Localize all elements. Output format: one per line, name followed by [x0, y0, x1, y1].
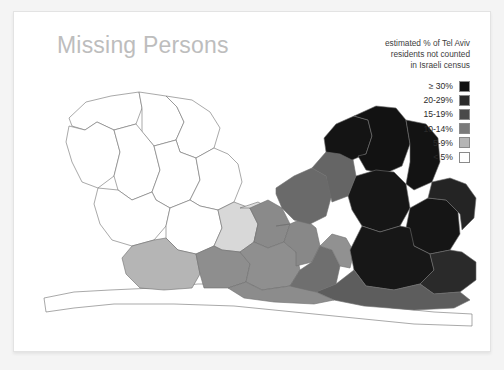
legend-swatch — [459, 109, 470, 120]
legend-row-4[interactable]: 5-9% — [320, 137, 470, 148]
legend-label: 15-19% — [423, 109, 453, 119]
legend-label: 20-29% — [423, 95, 453, 105]
legend-label: < 5% — [433, 152, 453, 162]
page-title: Missing Persons — [57, 32, 229, 59]
legend-swatch — [459, 137, 470, 148]
legend-row-1[interactable]: 20-29% — [320, 95, 470, 106]
legend-swatch — [459, 81, 470, 92]
legend-label: ≥ 30% — [429, 81, 453, 91]
legend-swatch — [459, 152, 470, 163]
legend-items: ≥ 30%20-29%15-19%10-14%5-9%< 5% — [320, 81, 470, 163]
legend-caption-line-1: residents not counted — [320, 49, 470, 60]
map-region[interactable] — [348, 170, 410, 232]
legend-label: 10-14% — [423, 124, 453, 134]
map-region[interactable] — [66, 122, 120, 188]
screenshot-root: Missing Persons estimated % of Tel Avivr… — [0, 0, 504, 370]
legend-row-2[interactable]: 15-19% — [320, 109, 470, 120]
legend-caption: estimated % of Tel Avivresidents not cou… — [320, 38, 470, 72]
map-card: Missing Persons estimated % of Tel Avivr… — [13, 11, 491, 352]
map-legend: estimated % of Tel Avivresidents not cou… — [320, 38, 470, 166]
legend-label: 5-9% — [433, 138, 453, 148]
legend-row-0[interactable]: ≥ 30% — [320, 81, 470, 92]
legend-row-5[interactable]: < 5% — [320, 152, 470, 163]
legend-caption-line-0: estimated % of Tel Aviv — [320, 38, 470, 49]
legend-swatch — [459, 123, 470, 134]
legend-caption-line-2: in Israeli census — [320, 60, 470, 71]
legend-swatch — [459, 95, 470, 106]
map-region[interactable] — [69, 92, 142, 130]
legend-row-3[interactable]: 10-14% — [320, 123, 470, 134]
